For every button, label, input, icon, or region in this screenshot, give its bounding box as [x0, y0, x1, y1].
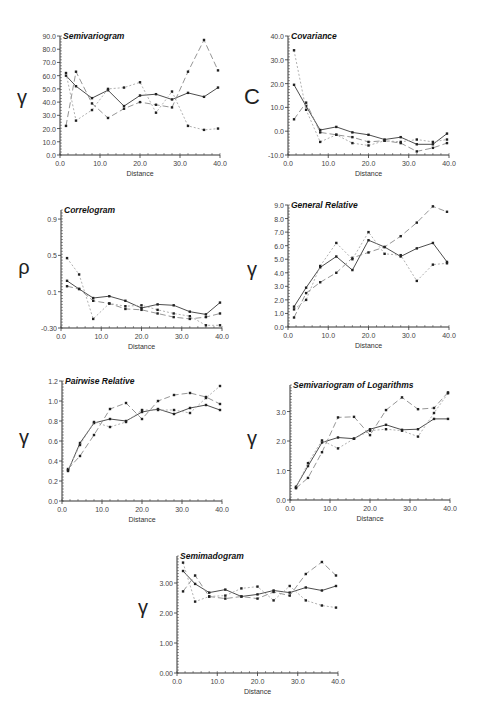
data-point-marker [416, 221, 418, 223]
data-point-marker [351, 131, 353, 133]
data-point-marker [367, 251, 369, 253]
charts-layer: Semivariogram0.010.020.030.040.050.060.0… [17, 31, 457, 695]
data-point-marker [187, 92, 189, 94]
data-point-marker [205, 404, 207, 406]
data-point-marker [367, 141, 369, 143]
data-point-marker [205, 324, 207, 326]
data-point-marker [351, 258, 353, 260]
data-point-marker [217, 69, 219, 71]
y-tick-label: 6.0 [274, 243, 284, 250]
data-point-marker [369, 430, 371, 432]
y-tick-label: 40.0 [42, 99, 56, 106]
y-tick-label: -0.30 [41, 325, 57, 332]
data-point-marker [417, 428, 419, 430]
data-point-marker [173, 312, 175, 314]
x-tick-label: 0.0 [56, 333, 66, 340]
data-point-marker [305, 101, 307, 103]
data-point-marker [293, 84, 295, 86]
y-tick-label: 60.0 [42, 73, 56, 80]
data-point-marker [155, 93, 157, 95]
data-point-marker [66, 285, 68, 287]
data-point-marker [124, 300, 126, 302]
data-point-marker [321, 604, 323, 606]
data-point-marker [240, 587, 242, 589]
data-point-marker [293, 118, 295, 120]
y-tick-label: 1.0 [48, 398, 58, 405]
data-point-marker [351, 142, 353, 144]
data-point-marker [189, 392, 191, 394]
data-point-marker [416, 247, 418, 249]
data-point-marker [307, 477, 309, 479]
x-tick-label: 10.0 [323, 505, 337, 512]
y-tick-label: 10.0 [270, 104, 284, 111]
data-point-marker [141, 418, 143, 420]
y-tick-label: 80.0 [42, 46, 56, 53]
data-point-marker [203, 129, 205, 131]
data-point-marker [125, 421, 127, 423]
data-point-marker [337, 416, 339, 418]
y-tick-label: 2.00 [159, 610, 173, 617]
data-point-marker [79, 444, 81, 446]
data-point-marker [335, 574, 337, 576]
data-series-3 [183, 563, 336, 608]
data-point-marker [447, 418, 449, 420]
y-tick-label: 9.0 [274, 202, 284, 209]
data-point-marker [305, 586, 307, 588]
data-point-marker [367, 231, 369, 233]
x-tick-label: 30.0 [175, 506, 189, 513]
data-point-marker [203, 96, 205, 98]
data-point-marker [295, 486, 297, 488]
data-point-marker [75, 85, 77, 87]
data-point-marker [305, 286, 307, 288]
data-point-marker [139, 81, 141, 83]
data-point-marker [293, 305, 295, 307]
data-point-marker [219, 385, 221, 387]
data-point-marker [401, 430, 403, 432]
x-tick-label: 40.0 [213, 160, 227, 167]
y-tick-label: 0.0 [48, 498, 58, 505]
x-tick-label: 40.0 [215, 333, 229, 340]
data-point-marker [187, 125, 189, 127]
data-point-marker [78, 288, 80, 290]
data-point-marker [417, 435, 419, 437]
x-axis-label: Distance [128, 516, 155, 523]
x-tick-label: 40.0 [443, 505, 457, 512]
x-tick-label: 30.0 [291, 678, 305, 685]
data-point-marker [321, 451, 323, 453]
data-point-marker [224, 594, 226, 596]
data-point-marker [383, 246, 385, 248]
data-point-marker [171, 106, 173, 108]
x-axis-label: Distance [128, 343, 155, 350]
data-point-marker [156, 303, 158, 305]
y-tick-label: 30.0 [42, 112, 56, 119]
x-tick-label: 0.0 [55, 160, 65, 167]
data-point-marker [353, 416, 355, 418]
x-tick-label: 10.0 [94, 333, 108, 340]
data-point-marker [123, 105, 125, 107]
chart-title: Covariance [291, 31, 337, 41]
x-axis-label: Distance [355, 342, 382, 349]
data-point-marker [446, 262, 448, 264]
data-point-marker [416, 138, 418, 140]
x-tick-label: 10.0 [95, 506, 109, 513]
data-series-2 [183, 562, 336, 599]
data-point-marker [417, 408, 419, 410]
data-point-marker [65, 72, 67, 74]
x-tick-label: 10.0 [321, 160, 335, 167]
data-point-marker [432, 205, 434, 207]
data-point-marker [335, 585, 337, 587]
y-axis-symbol: γ [247, 427, 257, 449]
data-series-3 [67, 258, 220, 325]
data-point-marker [171, 90, 173, 92]
x-axis-label: Distance [244, 688, 271, 695]
data-point-marker [416, 280, 418, 282]
data-point-marker [400, 254, 402, 256]
data-point-marker [335, 126, 337, 128]
data-point-marker [319, 265, 321, 267]
x-tick-label: 10.0 [93, 160, 107, 167]
data-point-marker [173, 413, 175, 415]
chart-semimadogram: Semimadogram0.001.002.003.000.010.020.03… [138, 551, 345, 695]
data-point-marker [194, 583, 196, 585]
data-point-marker [125, 402, 127, 404]
y-tick-label: 7.0 [274, 229, 284, 236]
